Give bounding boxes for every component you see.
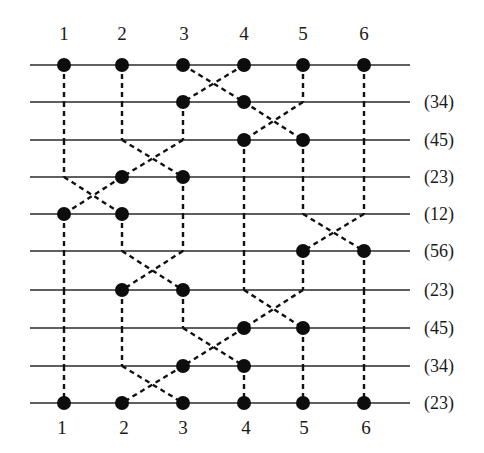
node-dot: [176, 95, 190, 109]
node-dot: [296, 133, 310, 147]
node-dot: [237, 321, 251, 335]
node-dot: [115, 207, 129, 221]
row-label: (23): [424, 167, 454, 188]
row-swap-labels: (34) (45) (23) (12) (56) (23) (45) (34) …: [424, 92, 454, 414]
dashed-wires: [64, 65, 364, 403]
node-dot: [57, 58, 71, 72]
top-label: 6: [359, 23, 369, 44]
node-dot: [357, 396, 371, 410]
node-dot: [57, 396, 71, 410]
node-dot: [296, 244, 310, 258]
node-dot: [237, 95, 251, 109]
node-dot: [176, 58, 190, 72]
node-dot: [296, 396, 310, 410]
bottom-label: 4: [241, 417, 251, 438]
bottom-label: 3: [178, 417, 188, 438]
node-dot: [237, 359, 251, 373]
bottom-label: 6: [361, 417, 371, 438]
row-label: (23): [424, 393, 454, 414]
node-dot: [115, 58, 129, 72]
horizontal-lines: [30, 65, 410, 403]
top-column-labels: 1 2 3 4 5 6: [59, 23, 369, 44]
node-dot: [115, 396, 129, 410]
row-label: (56): [424, 241, 454, 262]
bottom-label: 5: [299, 417, 309, 438]
node-dot: [176, 283, 190, 297]
row-label: (45): [424, 318, 454, 339]
node-dot: [237, 133, 251, 147]
bottom-label: 2: [119, 417, 129, 438]
node-dots: [57, 58, 371, 410]
node-dot: [115, 283, 129, 297]
node-dot: [357, 58, 371, 72]
top-label: 5: [298, 23, 308, 44]
node-dot: [357, 244, 371, 258]
row-label: (34): [424, 92, 454, 113]
top-label: 1: [59, 23, 69, 44]
node-dot: [296, 321, 310, 335]
braid-diagram: 1 2 3 4 5 6 1 2 3 4 5 6 (34) (45) (23) (…: [0, 0, 484, 453]
top-label: 4: [239, 23, 249, 44]
node-dot: [176, 396, 190, 410]
bottom-column-labels: 1 2 3 4 5 6: [57, 417, 371, 438]
row-label: (45): [424, 130, 454, 151]
row-label: (34): [424, 356, 454, 377]
node-dot: [176, 170, 190, 184]
top-label: 2: [117, 23, 127, 44]
node-dot: [57, 207, 71, 221]
node-dot: [115, 170, 129, 184]
node-dot: [176, 359, 190, 373]
row-label: (23): [424, 280, 454, 301]
top-label: 3: [179, 23, 189, 44]
bottom-label: 1: [57, 417, 67, 438]
row-label: (12): [424, 204, 454, 225]
node-dot: [237, 396, 251, 410]
node-dot: [237, 58, 251, 72]
node-dot: [296, 58, 310, 72]
